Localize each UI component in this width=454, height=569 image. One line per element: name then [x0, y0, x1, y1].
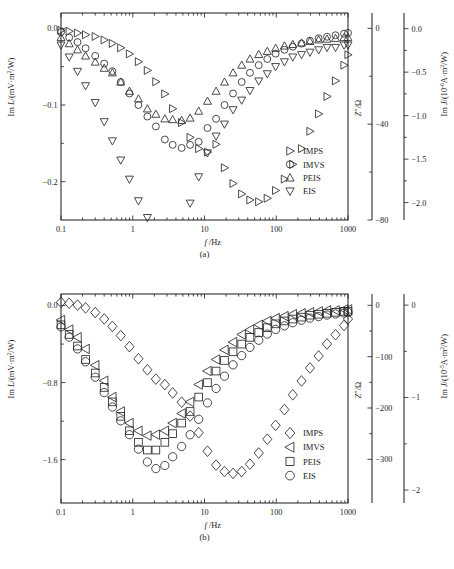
x-tick-label: 10 — [200, 225, 208, 234]
figure-panel-a: 0.11101001000f /Hz(a)0.0−0.1−0.2Im L/(mV… — [0, 0, 454, 285]
data-point-EIS — [82, 83, 90, 90]
data-point-EIS — [117, 417, 125, 425]
data-point-PEIS — [289, 315, 297, 323]
data-point-IMVS — [230, 90, 237, 97]
data-point-EIS — [134, 198, 142, 205]
data-point-IMPS — [307, 127, 314, 135]
data-point-EIS — [271, 325, 279, 333]
data-point-PEIS — [186, 114, 194, 121]
data-point-EIS — [143, 215, 151, 222]
data-point-PEIS — [125, 87, 133, 94]
data-point-PEIS — [178, 419, 186, 427]
data-point-PEIS — [169, 430, 177, 438]
right-axis-outer: 0.0−0.5−1.0−1.5−2.0 — [404, 13, 426, 220]
data-point-PEIS — [152, 110, 160, 117]
data-point-IMVS — [237, 330, 246, 339]
data-point-IMPS — [288, 389, 297, 400]
data-point-IMVS — [185, 397, 194, 406]
data-point-PEIS — [144, 446, 152, 454]
x-tick-label: 1 — [131, 225, 135, 234]
data-point-IMPS — [239, 190, 246, 198]
data-point-EIS — [340, 42, 348, 49]
data-point-IMPS — [162, 90, 169, 98]
x-tick-label: 1 — [131, 508, 135, 517]
data-point-IMPS — [264, 194, 271, 202]
data-point-EIS — [331, 310, 339, 318]
data-point-IMPS — [109, 39, 116, 47]
legend-label-IMVS: IMVS — [303, 442, 325, 452]
legend-marker-EIS — [286, 188, 294, 196]
legend-marker-PEIS — [286, 457, 294, 465]
left-tick-label: −0.1 — [43, 101, 58, 110]
right-outer-tick-label: −1 — [412, 393, 421, 402]
left-axis: 0.0−0.8−1.6 — [43, 301, 66, 464]
data-point-EIS — [212, 384, 220, 392]
data-point-EIS — [117, 157, 125, 164]
right-outer-tick-label: −2 — [412, 486, 421, 495]
data-point-IMPS — [196, 145, 203, 153]
data-point-PEIS — [255, 329, 263, 337]
data-point-EIS — [332, 44, 340, 51]
data-point-IMVS — [90, 361, 99, 370]
data-point-PEIS — [195, 107, 203, 114]
data-point-IMPS — [143, 365, 152, 376]
data-point-EIS — [152, 464, 160, 472]
data-point-IMPS — [92, 33, 99, 41]
data-point-IMVS — [143, 431, 152, 440]
data-point-IMPS — [65, 298, 74, 309]
data-point-EIS — [297, 316, 305, 324]
data-point-PEIS — [255, 50, 263, 57]
data-point-IMVS — [160, 426, 169, 435]
data-point-IMPS — [170, 105, 177, 113]
data-point-IMPS — [332, 77, 339, 85]
right-outer-tick-label: −2.0 — [412, 199, 427, 208]
data-point-IMPS — [254, 448, 263, 459]
left-tick-label: −0.8 — [43, 379, 58, 388]
series-IMVS — [58, 29, 352, 152]
data-point-IMPS — [160, 379, 169, 390]
data-point-IMPS — [203, 446, 212, 457]
data-point-EIS — [220, 372, 228, 380]
plot-b: 0.11101001000f /Hz(b)0.0−0.8−1.6Im L/(mV… — [0, 280, 454, 569]
right-inner-tick-label: 0 — [376, 24, 380, 33]
right-inner-tick-label: −80 — [376, 216, 389, 225]
data-point-IMVS — [144, 113, 151, 120]
right-outer-tick-label: −1.0 — [412, 112, 427, 121]
data-point-EIS — [221, 121, 229, 128]
data-point-IMPS — [316, 110, 323, 118]
data-point-PEIS — [229, 69, 237, 76]
left-axis: 0.0−0.1−0.2 — [43, 24, 66, 186]
data-point-EIS — [100, 119, 108, 126]
data-point-PEIS — [229, 348, 237, 356]
data-point-IMPS — [81, 303, 90, 314]
data-point-EIS — [315, 47, 323, 54]
data-point-IMPS — [220, 466, 229, 477]
data-point-EIS — [81, 358, 89, 366]
data-point-IMPS — [247, 196, 254, 204]
data-point-IMPS — [339, 320, 348, 331]
data-point-IMPS — [331, 329, 340, 340]
data-point-PEIS — [82, 52, 90, 59]
data-point-IMPS — [144, 66, 151, 74]
x-axis-label: f /Hz — [205, 521, 222, 530]
data-point-IMVS — [178, 144, 185, 151]
data-point-IMPS — [91, 307, 100, 318]
x-tick-label: 10 — [200, 508, 208, 517]
data-point-IMVS — [220, 345, 229, 354]
data-point-IMVS — [281, 46, 288, 53]
legend-label-EIS: EIS — [303, 471, 316, 481]
right-inner-axis-label: Z″/Ω — [354, 100, 363, 117]
data-point-EIS — [161, 461, 169, 469]
data-point-EIS — [229, 107, 237, 114]
data-point-IMVS — [134, 426, 143, 435]
legend-label-PEIS: PEIS — [303, 173, 321, 183]
data-point-EIS — [246, 88, 254, 95]
data-point-IMPS — [194, 427, 203, 438]
legend-label-EIS: EIS — [303, 186, 316, 196]
data-point-IMVS — [245, 325, 254, 334]
data-point-IMVS — [152, 123, 159, 130]
data-point-IMPS — [324, 93, 331, 101]
data-point-PEIS — [195, 393, 203, 401]
data-point-EIS — [272, 64, 280, 71]
data-point-EIS — [143, 458, 151, 466]
